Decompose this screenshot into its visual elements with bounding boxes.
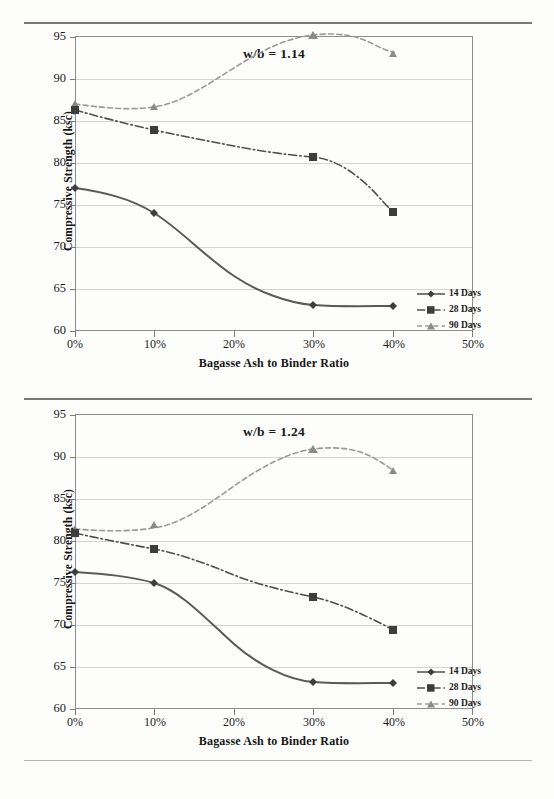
chart-2-xlabel: Bagasse Ash to Binder Ratio — [75, 734, 473, 749]
chart-1-legend-item-14-days: 14 Days — [416, 286, 481, 302]
chart-1-xtick-50: 50% — [449, 337, 497, 352]
chart-2-legend-item-28-days: 28 Days — [416, 680, 481, 696]
chart-1-ylabel: Compressive Strength (ksc) — [62, 56, 74, 306]
chart-1-ytick-85: 85 — [28, 113, 66, 128]
legend-key-28-days-icon — [416, 304, 446, 316]
chart-2-legend-label-28-days: 28 Days — [449, 683, 481, 693]
chart-1-ytick-70: 70 — [28, 239, 66, 254]
chart-2-ytick-75: 75 — [28, 575, 66, 590]
chart-2-xtick-30: 30% — [290, 715, 338, 730]
chart-2-ytick-85: 85 — [28, 491, 66, 506]
chart-2-legend-item-90-days: 90 Days — [416, 696, 481, 712]
chart-1-legend-label-90-days: 90 Days — [449, 321, 481, 331]
chart-2-ytick-70: 70 — [28, 617, 66, 632]
chart-2-xtick-50: 50% — [449, 715, 497, 730]
chart-2-legend-label-14-days: 14 Days — [449, 667, 481, 677]
chart-panel-1: w/b = 1.14 Compressive Strength (ksc) 95… — [0, 0, 554, 392]
chart-1: w/b = 1.14 Compressive Strength (ksc) 95… — [0, 0, 554, 380]
chart-2-legend-item-14-days: 14 Days — [416, 664, 481, 680]
legend-key-14-days-icon — [416, 666, 446, 678]
chart-panel-2: w/b = 1.24 Compressive Strength (ksc) 95… — [0, 392, 554, 784]
chart-1-legend-item-28-days: 28 Days — [416, 302, 481, 318]
chart-1-xtick-30: 30% — [290, 337, 338, 352]
chart-1-legend-label-14-days: 14 Days — [449, 289, 481, 299]
chart-2: w/b = 1.24 Compressive Strength (ksc) 95… — [0, 392, 554, 772]
chart-2-xtick-20: 20% — [210, 715, 258, 730]
chart-2-xtick-10: 10% — [131, 715, 179, 730]
legend-key-90-days-icon — [416, 698, 446, 710]
figure-page: w/b = 1.14 Compressive Strength (ksc) 95… — [0, 0, 554, 799]
chart-1-title: w/b = 1.14 — [75, 46, 473, 62]
chart-1-xtick-20: 20% — [210, 337, 258, 352]
chart-1-legend-item-90-days: 90 Days — [416, 318, 481, 334]
chart-2-ytick-95: 95 — [28, 407, 66, 422]
chart-2-ytick-90: 90 — [28, 449, 66, 464]
chart-1-ytick-65: 65 — [28, 281, 66, 296]
chart-1-legend: 14 Days 28 Days — [416, 286, 481, 334]
chart-2-legend-label-90-days: 90 Days — [449, 699, 481, 709]
chart-2-ytick-80: 80 — [28, 533, 66, 548]
chart-2-ytick-65: 65 — [28, 659, 66, 674]
chart-1-xtick-40: 40% — [370, 337, 418, 352]
chart-1-xtick-10: 10% — [131, 337, 179, 352]
chart-1-xtick-0: 0% — [51, 337, 99, 352]
chart-2-legend: 14 Days 28 Days — [416, 664, 481, 712]
legend-key-28-days-icon — [416, 682, 446, 694]
chart-1-xlabel: Bagasse Ash to Binder Ratio — [75, 356, 473, 371]
chart-1-ytick-75: 75 — [28, 197, 66, 212]
legend-key-14-days-icon — [416, 288, 446, 300]
chart-1-legend-label-28-days: 28 Days — [449, 305, 481, 315]
chart-1-ytick-80: 80 — [28, 155, 66, 170]
plot-area-2 — [75, 414, 473, 709]
chart-2-ytick-60: 60 — [28, 701, 66, 716]
chart-1-ytick-60: 60 — [28, 323, 66, 338]
chart-1-ytick-95: 95 — [28, 29, 66, 44]
chart-2-title: w/b = 1.24 — [75, 424, 473, 440]
panel-2-bottom-rule — [24, 760, 532, 761]
plot-area-1 — [75, 36, 473, 331]
chart-1-ytick-90: 90 — [28, 71, 66, 86]
chart-2-ylabel: Compressive Strength (ksc) — [62, 434, 74, 684]
chart-2-xtick-40: 40% — [370, 715, 418, 730]
chart-2-xtick-0: 0% — [51, 715, 99, 730]
legend-key-90-days-icon — [416, 320, 446, 332]
